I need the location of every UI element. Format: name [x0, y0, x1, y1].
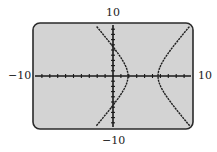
xmin-label: −10 — [8, 70, 31, 81]
xmax-label: 10 — [198, 70, 212, 81]
ymax-label: 10 — [106, 7, 120, 18]
ymin-label: −10 — [102, 135, 125, 146]
calculator-screen — [0, 0, 217, 152]
